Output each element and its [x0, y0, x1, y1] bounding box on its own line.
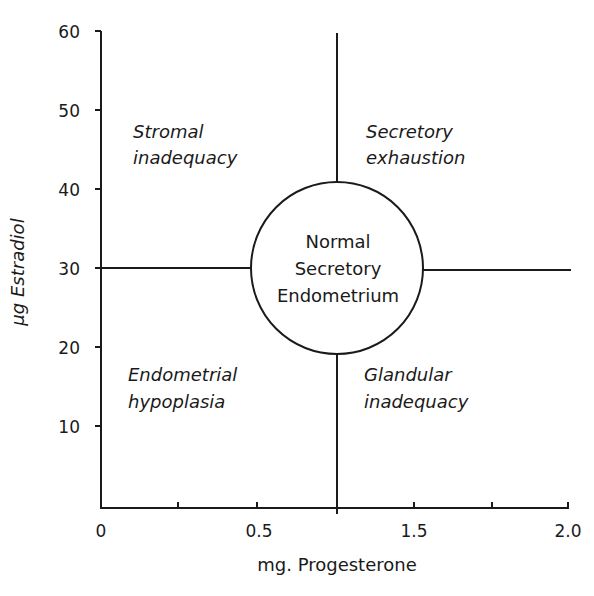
quadrant-lower-right-line2: inadequacy [364, 391, 469, 412]
y-tick-label-20: 20 [58, 338, 80, 358]
x-tick-label-0: 0 [96, 521, 107, 541]
y-tick-label-50: 50 [58, 101, 80, 121]
x-tick-label-2.0: 2.0 [554, 521, 581, 541]
quadrant-upper-left-line1: Stromal [133, 121, 203, 142]
y-axis-title: µg Estradiol [7, 218, 28, 326]
quadrant-lower-right-line1: Glandular [364, 364, 453, 385]
quadrant-upper-left-line2: inadequacy [133, 147, 238, 168]
x-tick-label-1.5: 1.5 [400, 521, 427, 541]
x-axis: 0 0.5 1.5 2.0 mg. Progesterone [96, 502, 582, 575]
y-axis: 60 50 40 30 20 10 µg Estradiol [7, 22, 101, 508]
x-axis-title: mg. Progesterone [257, 554, 416, 575]
quadrant-diagram: 60 50 40 30 20 10 µg Estradiol 0 0.5 1.5… [0, 0, 594, 596]
quadrant-upper-right-line1: Secretory [366, 121, 453, 142]
y-tick-label-30: 30 [58, 259, 80, 279]
center-label-line3: Endometrium [277, 285, 399, 306]
y-tick-label-60: 60 [58, 22, 80, 42]
center-label-line2: Secretory [295, 258, 382, 279]
y-tick-label-10: 10 [58, 417, 80, 437]
quadrant-lower-left-line1: Endometrial [128, 364, 237, 385]
quadrant-lower-left-line2: hypoplasia [128, 391, 225, 412]
center-label-line1: Normal [305, 231, 370, 252]
x-tick-label-0.5: 0.5 [245, 521, 272, 541]
quadrant-upper-right-line2: exhaustion [366, 147, 465, 168]
y-tick-label-40: 40 [58, 180, 80, 200]
